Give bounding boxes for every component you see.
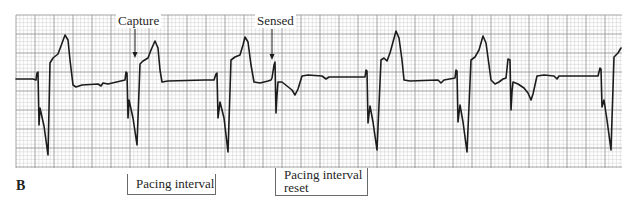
sensed-label: Sensed	[255, 14, 296, 28]
panel-letter: B	[16, 178, 25, 194]
ecg-figure: Capture Sensed B Pacing interval Pacing …	[0, 0, 637, 205]
pacing-interval-bracket: Pacing interval	[127, 174, 216, 195]
grid-minor-lines	[16, 15, 622, 168]
pacing-interval-reset-bracket: Pacing interval reset	[275, 168, 368, 196]
pacing-interval-reset-label-line2: reset	[284, 181, 309, 194]
capture-label: Capture	[116, 14, 161, 28]
pacing-interval-label: Pacing interval	[136, 177, 214, 190]
